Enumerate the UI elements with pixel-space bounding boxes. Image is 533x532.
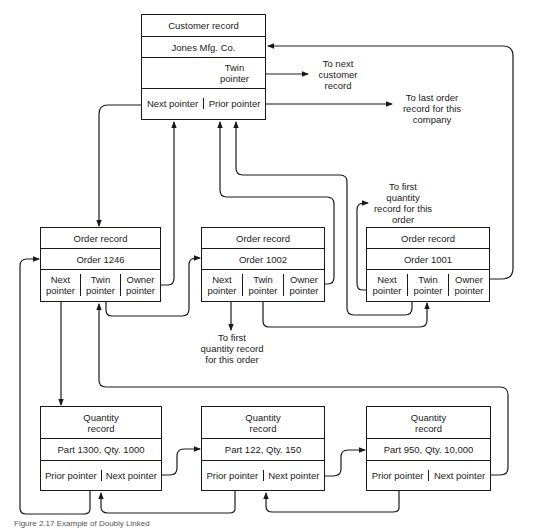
customer-next-pointer: Next pointer — [142, 98, 204, 109]
order-twin-pointer: Twin pointer — [408, 274, 449, 296]
order-record-title: Order record — [367, 228, 489, 249]
quantity-record-title: Quantity record — [202, 407, 324, 439]
label-to-next-customer: To next customer record — [308, 58, 368, 91]
order-pointer-row: Next pointer Twin pointer Owner pointer — [202, 270, 324, 300]
quantity-prior-pointer: Prior pointer — [41, 470, 102, 481]
customer-record: Customer record Jones Mfg. Co. Twin poin… — [141, 14, 266, 120]
order-record-1002: Order record Order 1002 Next pointer Twi… — [201, 227, 325, 302]
quantity-detail: Part 950, Qty. 10,000 — [367, 439, 490, 461]
quantity-prior-pointer: Prior pointer — [367, 470, 429, 481]
customer-twin-pointer: Twin pointer — [204, 62, 265, 84]
quantity-record-2: Quantity record Part 122, Qty. 150 Prior… — [201, 406, 325, 491]
quantity-record-1: Quantity record Part 1300, Qty. 1000 Pri… — [40, 406, 162, 491]
order-id: Order 1002 — [202, 249, 324, 270]
quantity-detail: Part 122, Qty. 150 — [202, 439, 324, 461]
quantity-next-pointer: Next pointer — [264, 470, 325, 481]
order-pointer-row: Next pointer Twin pointer Owner pointer — [367, 270, 489, 300]
order-twin-pointer: Twin pointer — [243, 274, 284, 296]
quantity-record-3: Quantity record Part 950, Qty. 10,000 Pr… — [366, 406, 491, 491]
order-pointer-row: Next pointer Twin pointer Owner pointer — [41, 270, 160, 300]
order-next-pointer: Next pointer — [367, 274, 408, 296]
quantity-record-title: Quantity record — [41, 407, 161, 439]
order-id: Order 1246 — [41, 249, 160, 270]
customer-record-title: Customer record — [142, 15, 265, 37]
order-next-pointer: Next pointer — [41, 274, 81, 296]
customer-pointer-row: Next pointer Prior pointer — [142, 89, 265, 118]
order-id: Order 1001 — [367, 249, 489, 270]
quantity-pointer-row: Prior pointer Next pointer — [202, 461, 324, 489]
customer-twin-row: Twin pointer — [142, 58, 265, 89]
quantity-next-pointer: Next pointer — [102, 470, 162, 481]
order-twin-pointer: Twin pointer — [81, 274, 121, 296]
label-to-first-quantity-1001: To first quantity record for this order — [368, 181, 438, 225]
quantity-pointer-row: Prior pointer Next pointer — [41, 461, 161, 489]
label-to-last-order: To last order record for this company — [392, 92, 472, 125]
order-owner-pointer: Owner pointer — [121, 274, 160, 296]
label-to-first-quantity-1002: To first quantity record for this order — [192, 332, 272, 365]
order-owner-pointer: Owner pointer — [449, 274, 489, 296]
order-record-title: Order record — [41, 228, 160, 249]
figure-caption: Figure 2.17 Example of Doubly Linked — [14, 519, 150, 528]
customer-name: Jones Mfg. Co. — [142, 37, 265, 58]
quantity-prior-pointer: Prior pointer — [202, 470, 264, 481]
order-owner-pointer: Owner pointer — [284, 274, 324, 296]
order-next-pointer: Next pointer — [202, 274, 243, 296]
customer-prior-pointer: Prior pointer — [204, 98, 265, 109]
quantity-record-title: Quantity record — [367, 407, 490, 439]
order-record-1001: Order record Order 1001 Next pointer Twi… — [366, 227, 490, 302]
quantity-pointer-row: Prior pointer Next pointer — [367, 461, 490, 489]
quantity-detail: Part 1300, Qty. 1000 — [41, 439, 161, 461]
order-record-1246: Order record Order 1246 Next pointer Twi… — [40, 227, 161, 302]
order-record-title: Order record — [202, 228, 324, 249]
quantity-next-pointer: Next pointer — [429, 470, 490, 481]
